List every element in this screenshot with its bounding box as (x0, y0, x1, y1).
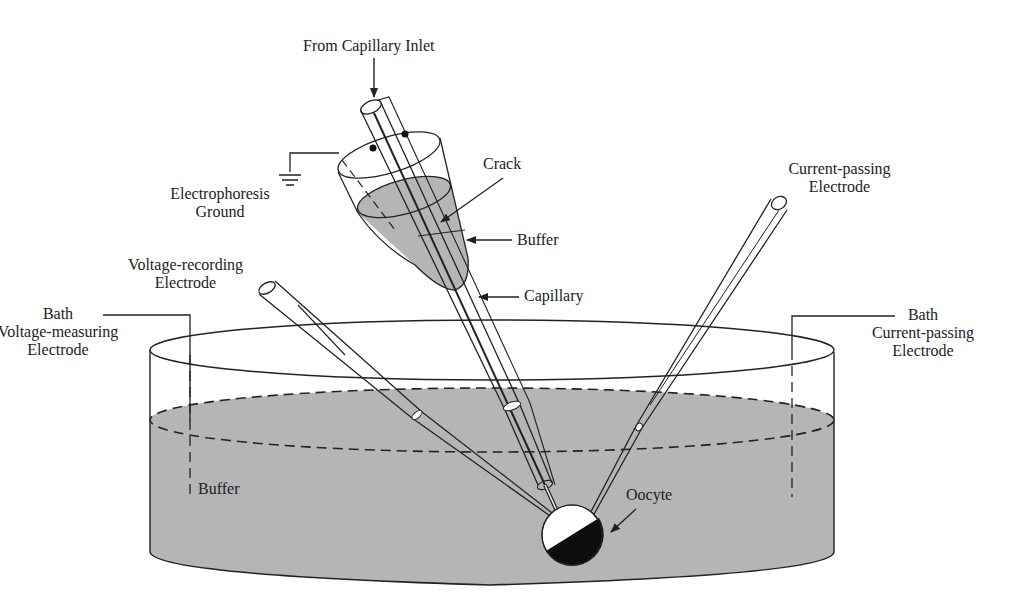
label-bath-current-passing-electrode: Bath Current-passing Electrode (853, 306, 993, 360)
bath-dish (150, 320, 834, 585)
label-buffer-funnel: Buffer (517, 231, 558, 249)
label-bath-buffer: Buffer (198, 480, 239, 498)
label-electrophoresis-ground: Electrophoresis Ground (155, 185, 285, 221)
ground-icon (279, 153, 339, 185)
label-crack: Crack (483, 155, 521, 173)
label-capillary: Capillary (524, 287, 584, 305)
buffer-funnel (333, 122, 468, 290)
label-current-passing-electrode: Current-passing Electrode (772, 160, 907, 196)
label-voltage-recording-electrode: Voltage-recording Electrode (113, 256, 258, 292)
label-capillary-inlet: From Capillary Inlet (303, 37, 435, 55)
label-bath-voltage-measuring-electrode: Bath Voltage-measuring Electrode (0, 305, 138, 359)
label-oocyte: Oocyte (626, 486, 672, 504)
oocyte-capillary-electrophoresis-diagram: From Capillary Inlet Crack Buffer Capill… (0, 0, 1036, 613)
